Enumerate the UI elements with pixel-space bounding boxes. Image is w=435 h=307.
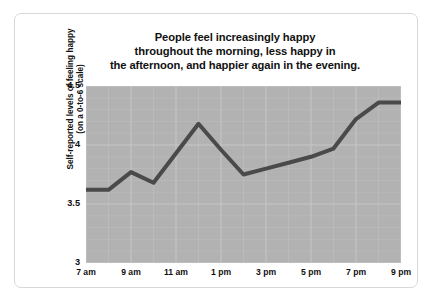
data-line-series (86, 86, 401, 263)
y-tick-label: 4.5 (50, 80, 80, 90)
x-tick-label: 7 pm (334, 267, 378, 277)
chart-title: People feel increasingly happy throughou… (65, 30, 405, 73)
x-tick-label: 9 pm (379, 267, 423, 277)
chart-title-line-1: People feel increasingly happy (65, 30, 405, 44)
y-tick-label: 3.5 (50, 198, 80, 208)
y-axis-title-line-1: Self-reported levels of feeling happy (66, 11, 76, 188)
y-tick-label: 4 (50, 139, 80, 149)
plot-area (86, 86, 401, 263)
y-axis-title-line-2: (on a 0-to-6 scale) (75, 11, 85, 188)
x-tick-label: 7 am (64, 267, 108, 277)
chart-title-line-2: throughout the morning, less happy in (65, 44, 405, 58)
x-tick-label: 3 pm (244, 267, 288, 277)
x-tick-label: 11 am (154, 267, 198, 277)
y-tick-label: 3 (50, 257, 80, 267)
x-tick-label: 1 pm (199, 267, 243, 277)
x-tick-label: 9 am (109, 267, 153, 277)
chart-title-line-3: the afternoon, and happier again in the … (65, 58, 405, 72)
figure-card: People feel increasingly happy throughou… (14, 13, 418, 288)
x-tick-label: 5 pm (289, 267, 333, 277)
